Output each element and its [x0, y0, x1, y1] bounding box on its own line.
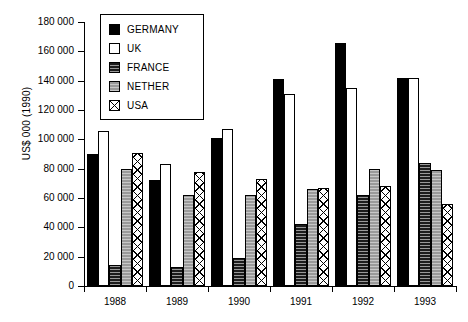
- legend-label-germany: GERMANY: [127, 25, 179, 35]
- bar-uk-1988: [98, 131, 109, 286]
- bar-uk-1991: [284, 94, 295, 286]
- legend-item-usa: USA: [109, 96, 203, 115]
- x-axis-group-label: 1992: [332, 296, 394, 307]
- bar-france-1990: [233, 258, 244, 286]
- x-axis-group-separator: [394, 286, 395, 292]
- y-axis-tick-label: 180 000: [12, 17, 74, 27]
- x-axis-group-label: 1991: [270, 296, 332, 307]
- legend-item-nether: NETHER: [109, 77, 203, 96]
- legend-swatch-germany-icon: [109, 24, 120, 35]
- x-axis-group-separator: [84, 286, 85, 292]
- x-axis-group-separator: [270, 286, 271, 292]
- x-axis-group-separator: [146, 286, 147, 292]
- bar-nether-1992: [369, 169, 380, 286]
- x-axis-group-label: 1989: [146, 296, 208, 307]
- y-axis-tick-label: 140 000: [12, 76, 74, 86]
- x-axis-group-label: 1993: [394, 296, 456, 307]
- y-axis-tick-label: 120 000: [12, 105, 74, 115]
- bar-uk-1992: [346, 88, 357, 286]
- legend-label-france: FRANCE: [127, 63, 169, 73]
- x-axis-group-label: 1990: [208, 296, 270, 307]
- y-axis-tick-label: 0: [12, 281, 74, 291]
- bar-germany-1991: [273, 79, 284, 286]
- legend-item-germany: GERMANY: [109, 20, 203, 39]
- bar-usa-1992: [380, 186, 391, 286]
- bar-france-1993: [419, 163, 430, 286]
- y-axis-tick-label: 100 000: [12, 134, 74, 144]
- bar-uk-1993: [408, 78, 419, 286]
- x-axis-group-separator: [208, 286, 209, 292]
- bar-usa-1990: [256, 179, 267, 286]
- legend-swatch-uk-icon: [109, 43, 120, 54]
- bar-france-1992: [357, 195, 368, 286]
- bar-nether-1990: [245, 195, 256, 286]
- y-axis-tick-label: 160 000: [12, 46, 74, 56]
- bar-france-1988: [109, 265, 120, 286]
- bar-nether-1988: [121, 169, 132, 286]
- legend-swatch-france-icon: [109, 62, 120, 73]
- y-axis-tick-label: 40 000: [12, 222, 74, 232]
- bar-germany-1993: [397, 78, 408, 286]
- bar-uk-1989: [160, 164, 171, 286]
- legend-swatch-nether-icon: [109, 81, 120, 92]
- legend-label-usa: USA: [127, 101, 148, 111]
- bar-germany-1990: [211, 138, 222, 286]
- legend-item-uk: UK: [109, 39, 203, 58]
- bar-germany-1988: [87, 154, 98, 286]
- bar-germany-1989: [149, 180, 160, 286]
- bar-chart: US$ 000 (1990) 180 000160 000140 000120 …: [0, 0, 468, 322]
- bar-nether-1993: [431, 170, 442, 286]
- legend-item-france: FRANCE: [109, 58, 203, 77]
- bar-france-1991: [295, 224, 306, 286]
- bar-usa-1989: [194, 172, 205, 286]
- bar-usa-1988: [132, 153, 143, 286]
- bar-nether-1991: [307, 189, 318, 286]
- x-axis-group-separator: [332, 286, 333, 292]
- y-axis-tick-label: 80 000: [12, 164, 74, 174]
- x-axis-group-label: 1988: [84, 296, 146, 307]
- legend-label-uk: UK: [127, 44, 141, 54]
- legend-swatch-usa-icon: [109, 100, 120, 111]
- bar-usa-1993: [442, 204, 453, 286]
- bar-uk-1990: [222, 129, 233, 286]
- y-axis-tick-label: 60 000: [12, 193, 74, 203]
- bar-nether-1989: [183, 195, 194, 286]
- x-axis-group-separator: [456, 286, 457, 292]
- bar-germany-1992: [335, 43, 346, 286]
- legend-label-nether: NETHER: [127, 82, 169, 92]
- y-axis-tick-label: 20 000: [12, 252, 74, 262]
- chart-legend: GERMANY UK FRANCE NETHER USA: [100, 14, 204, 120]
- bar-france-1989: [171, 267, 182, 286]
- bar-usa-1991: [318, 188, 329, 286]
